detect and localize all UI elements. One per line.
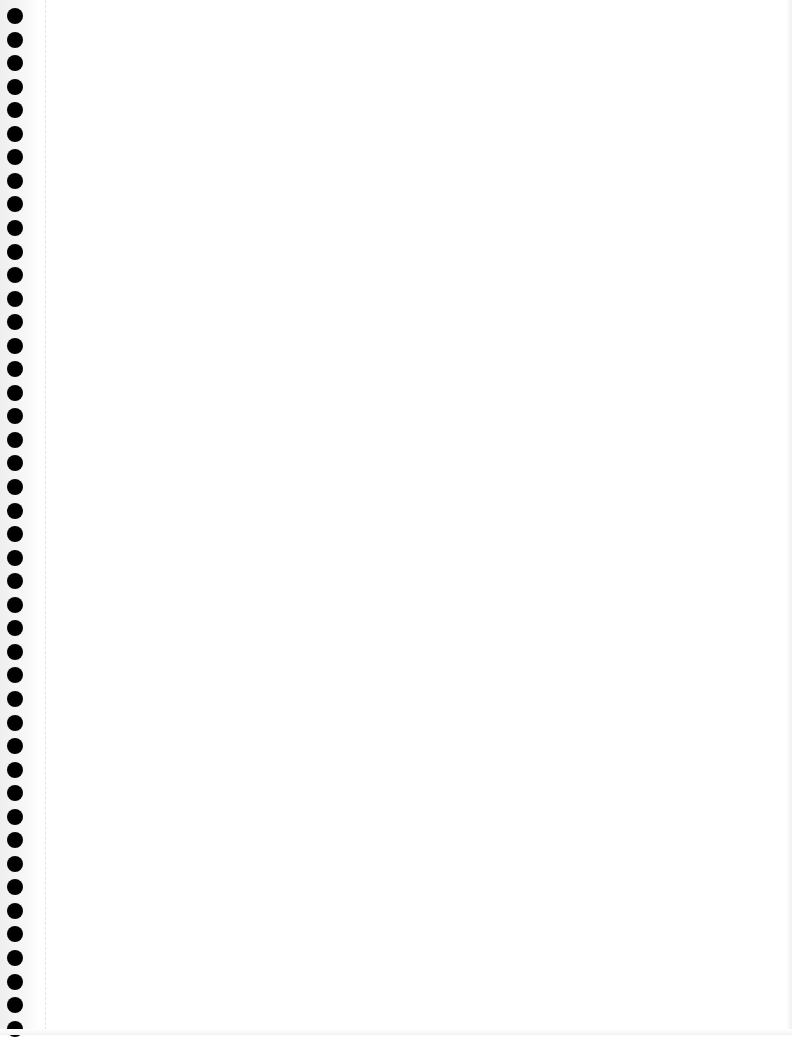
- binding-hole: [7, 950, 23, 966]
- binding-hole: [7, 644, 23, 660]
- binding-hole: [7, 79, 23, 95]
- binding-hole: [7, 879, 23, 895]
- binding-hole: [7, 432, 23, 448]
- binding-hole: [7, 573, 23, 589]
- binding-hole: [7, 785, 23, 801]
- binding-hole: [7, 55, 23, 71]
- binding-hole: [7, 526, 23, 542]
- binding-hole: [7, 149, 23, 165]
- binding-hole: [7, 715, 23, 731]
- binding-hole: [7, 738, 23, 754]
- binding-hole: [7, 338, 23, 354]
- binding-hole: [7, 997, 23, 1013]
- binding-hole: [7, 597, 23, 613]
- binding-hole: [7, 408, 23, 424]
- binding-hole: [7, 173, 23, 189]
- spiral-binding: [0, 0, 32, 1035]
- binding-hole: [7, 974, 23, 990]
- blank-writing-area: [50, 0, 786, 1029]
- binding-hole: [7, 385, 23, 401]
- binding-hole: [7, 126, 23, 142]
- binding-hole: [7, 550, 23, 566]
- binding-hole: [7, 691, 23, 707]
- binding-hole: [7, 196, 23, 212]
- margin-line: [45, 0, 46, 1035]
- binding-hole: [7, 856, 23, 872]
- binding-hole: [7, 361, 23, 377]
- binding-hole: [7, 809, 23, 825]
- page-bottom-edge: [0, 1029, 792, 1035]
- binding-hole: [7, 314, 23, 330]
- binding-hole: [7, 220, 23, 236]
- binding-hole: [7, 267, 23, 283]
- binding-hole: [7, 832, 23, 848]
- binding-hole: [7, 479, 23, 495]
- binding-hole: [7, 291, 23, 307]
- binding-hole: [7, 667, 23, 683]
- page-right-edge: [786, 0, 792, 1035]
- binding-hole: [7, 620, 23, 636]
- binding-hole: [7, 455, 23, 471]
- binding-hole: [7, 926, 23, 942]
- binding-hole: [7, 32, 23, 48]
- binding-hole: [7, 102, 23, 118]
- binding-hole: [7, 903, 23, 919]
- binding-hole: [7, 762, 23, 778]
- binding-hole: [7, 244, 23, 260]
- binding-hole: [7, 503, 23, 519]
- binding-hole: [7, 8, 23, 24]
